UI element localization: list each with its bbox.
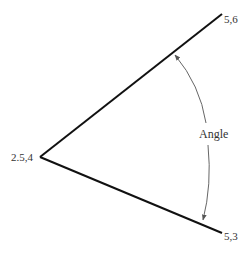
angle-label: Angle xyxy=(199,127,228,141)
lower-ray xyxy=(40,157,222,233)
angle-arc-upper xyxy=(175,55,206,123)
angle-diagram: 5,6 2.5,4 5,3 Angle xyxy=(0,0,251,257)
upper-point-label: 5,6 xyxy=(224,13,238,25)
vertex-label: 2.5,4 xyxy=(11,151,34,163)
angle-arc-lower xyxy=(203,145,209,220)
lower-point-label: 5,3 xyxy=(224,230,238,242)
